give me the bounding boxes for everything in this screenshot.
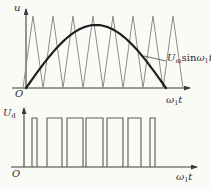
bottom-x-axis-label: ω1t bbox=[176, 171, 193, 184]
top-origin-label: O bbox=[15, 88, 23, 99]
t-symbol: t bbox=[178, 94, 183, 105]
omega-symbol: ω bbox=[166, 94, 174, 105]
spwm-waveform-figure: u O ω1t Umsinω1t Ud O ω1t bbox=[0, 0, 211, 189]
bottom-y-axis-label: Ud bbox=[3, 107, 16, 120]
top-plot: u O ω1t Umsinω1t bbox=[12, 2, 211, 107]
bottom-plot: Ud O ω1t bbox=[3, 107, 197, 184]
t-symbol: t bbox=[209, 52, 211, 63]
sin-function: sin bbox=[182, 52, 197, 63]
t-symbol: t bbox=[188, 171, 193, 182]
omega-symbol: ω bbox=[176, 171, 184, 182]
top-x-axis-label: ω1t bbox=[166, 94, 183, 107]
spwm-diagram-svg: u O ω1t Umsinω1t Ud O ω1t bbox=[0, 0, 211, 189]
U-subscript-d: d bbox=[11, 112, 15, 120]
top-y-axis-label: u bbox=[14, 2, 20, 13]
pwm-pulse-train bbox=[32, 118, 155, 167]
sine-wave-annotation: Umsinω1t bbox=[167, 52, 211, 65]
omega-symbol: ω bbox=[196, 52, 204, 63]
bottom-origin-label: O bbox=[12, 168, 20, 179]
